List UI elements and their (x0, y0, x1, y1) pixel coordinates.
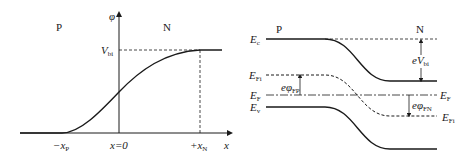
ephi-fp-label: eφFP (281, 82, 300, 95)
phi-axis-label: φ (109, 11, 115, 22)
ef-right-label: EF (440, 90, 451, 103)
ev-label: Ev (250, 102, 260, 115)
ec-label: Ec (250, 34, 260, 47)
efi-right-label: EFi (442, 112, 455, 125)
pn-junction-diagram (0, 0, 466, 162)
minus-xp-tick-label: −xP (53, 140, 69, 153)
efi-left-label: EFi (249, 70, 262, 83)
vbi-label: Vbi (101, 45, 113, 58)
left-region-n-label: N (163, 22, 171, 33)
left-region-p-label: P (56, 22, 62, 33)
ephi-fn-label: eφFN (412, 100, 432, 113)
right-region-n-label: N (416, 24, 424, 35)
x-axis-label: x (224, 140, 229, 151)
x-zero-tick-label: x=0 (110, 140, 128, 151)
valence-band (266, 107, 437, 149)
potential-curve (20, 50, 222, 133)
potential-plot (20, 14, 230, 133)
evbi-label: eVbi (412, 55, 429, 68)
plus-xn-tick-label: +xN (190, 140, 207, 153)
right-region-p-label: P (276, 24, 282, 35)
